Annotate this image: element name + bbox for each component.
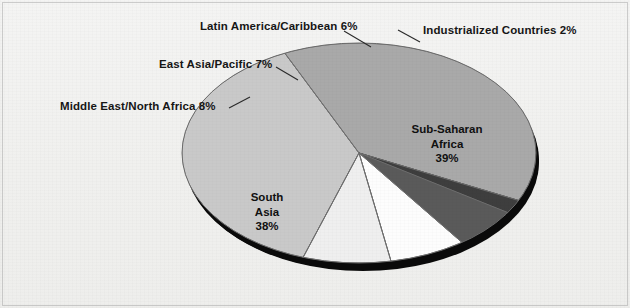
pie-label-sub-saharan-africa: Sub-Saharan Africa 39% xyxy=(387,122,507,166)
pie-chart: Latin America/Caribbean 6% Industrialize… xyxy=(0,0,630,308)
chart-page: Latin America/Caribbean 6% Industrialize… xyxy=(0,0,630,308)
leader-line-industrialized xyxy=(398,30,420,42)
pie-label-sub-saharan-africa-line2: Africa xyxy=(387,137,507,152)
pie-label-latin-america-caribbean: Latin America/Caribbean 6% xyxy=(200,20,357,34)
pie-label-south-asia-line2: Asia xyxy=(222,205,312,220)
pie-chart-svg xyxy=(0,0,630,308)
pie-label-middle-east-north-africa: Middle East/North Africa 8% xyxy=(60,100,216,114)
pie-label-sub-saharan-africa-line1: Sub-Saharan xyxy=(387,122,507,137)
pie-label-sub-saharan-africa-value: 39% xyxy=(387,151,507,166)
pie-label-south-asia: South Asia 38% xyxy=(222,190,312,234)
pie-label-east-asia-pacific: East Asia/Pacific 7% xyxy=(159,58,272,72)
pie-label-south-asia-value: 38% xyxy=(222,219,312,234)
pie-label-industrialized-countries: Industrialized Countries 2% xyxy=(423,24,577,38)
pie-label-south-asia-line1: South xyxy=(222,190,312,205)
